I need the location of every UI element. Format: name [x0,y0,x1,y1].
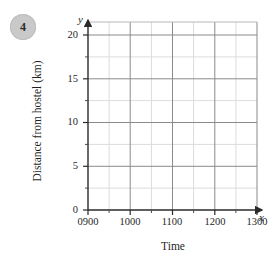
x-axis-title: Time [88,240,258,252]
y-tick-label-0: 0 [52,204,78,215]
x-tick-label-1300: 1300 [237,216,277,227]
y-axis-major-ticks [83,35,88,210]
x-tick-label-0900: 0900 [68,216,108,227]
y-tick-label-5: 5 [52,160,78,171]
graph-figure: y x 0 5 10 15 20 0900 1000 1100 1200 130… [0,0,277,264]
x-tick-label-1100: 1100 [152,216,192,227]
question-number-badge: 4 [10,14,36,40]
x-tick-label-1200: 1200 [195,216,235,227]
x-axis-major-ticks [88,210,257,215]
y-tick-label-20: 20 [52,29,78,40]
y-axis-title: Distance from hostel (km) [31,41,43,201]
y-tick-label-10: 10 [52,116,78,127]
question-number-text: 4 [20,21,26,33]
y-axis-variable-label: y [78,13,83,25]
y-tick-label-15: 15 [52,73,78,84]
x-tick-label-1000: 1000 [110,216,150,227]
